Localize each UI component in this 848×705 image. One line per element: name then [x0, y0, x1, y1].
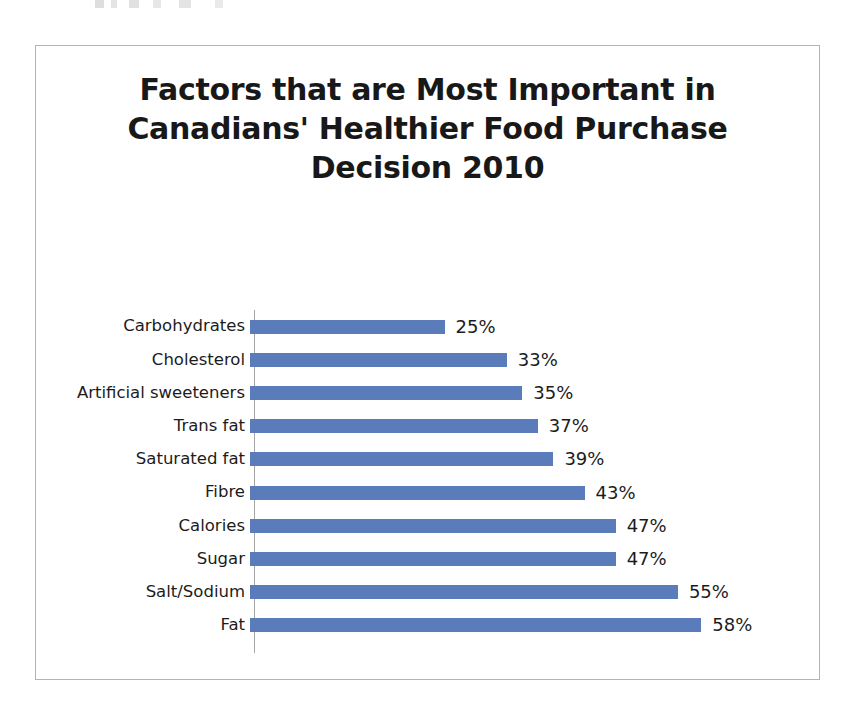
bar-row: Fibre43%	[36, 476, 819, 509]
bar-row: Artificial sweeteners35%	[36, 376, 819, 409]
bar[interactable]	[250, 585, 678, 599]
bar-row: Cholesterol33%	[36, 343, 819, 376]
category-label: Fibre	[36, 484, 250, 501]
category-label: Sugar	[36, 551, 250, 568]
bar-track: 43%	[250, 476, 819, 509]
bar[interactable]	[250, 486, 585, 500]
bar-track: 35%	[250, 376, 819, 409]
category-label: Cholesterol	[36, 352, 250, 369]
bar-value-label: 58%	[712, 616, 752, 634]
bar-row: Calories47%	[36, 509, 819, 542]
bar-row: Fat58%	[36, 609, 819, 642]
chart-title-line-2: Canadians' Healthier Food Purchase	[36, 109, 819, 148]
bar-row: Sugar47%	[36, 542, 819, 575]
chart-title-line-3: Decision 2010	[36, 148, 819, 187]
bar-value-label: 39%	[564, 450, 604, 468]
bar-row: Carbohydrates25%	[36, 310, 819, 343]
bar-row: Trans fat37%	[36, 410, 819, 443]
bar-value-label: 35%	[533, 384, 573, 402]
bar[interactable]	[250, 519, 616, 533]
bar-track: 58%	[250, 609, 819, 642]
bar[interactable]	[250, 552, 616, 566]
category-label: Fat	[36, 617, 250, 634]
category-label: Salt/Sodium	[36, 584, 250, 601]
bar[interactable]	[250, 320, 445, 334]
bar-value-label: 47%	[627, 550, 667, 568]
chart-title: Factors that are Most Important in Canad…	[36, 70, 819, 187]
category-label: Calories	[36, 518, 250, 535]
bar-track: 39%	[250, 443, 819, 476]
bar-value-label: 43%	[596, 484, 636, 502]
category-label: Artificial sweeteners	[36, 385, 250, 402]
bar-track: 47%	[250, 542, 819, 575]
bar-track: 47%	[250, 509, 819, 542]
bar[interactable]	[250, 452, 553, 466]
bar-value-label: 33%	[518, 351, 558, 369]
scan-artifact	[95, 0, 395, 8]
chart-container: Factors that are Most Important in Canad…	[35, 45, 820, 680]
category-label: Trans fat	[36, 418, 250, 435]
category-label: Saturated fat	[36, 451, 250, 468]
bar-track: 37%	[250, 410, 819, 443]
bar[interactable]	[250, 618, 701, 632]
bar-row: Salt/Sodium55%	[36, 576, 819, 609]
bar[interactable]	[250, 353, 507, 367]
bar-value-label: 25%	[456, 318, 496, 336]
category-label: Carbohydrates	[36, 318, 250, 335]
bar-row: Saturated fat39%	[36, 443, 819, 476]
bar[interactable]	[250, 419, 538, 433]
plot-area: Carbohydrates25%Cholesterol33%Artificial…	[36, 310, 819, 660]
bar-track: 33%	[250, 343, 819, 376]
chart-title-line-1: Factors that are Most Important in	[36, 70, 819, 109]
bar-track: 55%	[250, 576, 819, 609]
bar-value-label: 55%	[689, 583, 729, 601]
bar-value-label: 37%	[549, 417, 589, 435]
bar-track: 25%	[250, 310, 819, 343]
bar[interactable]	[250, 386, 522, 400]
bar-value-label: 47%	[627, 517, 667, 535]
